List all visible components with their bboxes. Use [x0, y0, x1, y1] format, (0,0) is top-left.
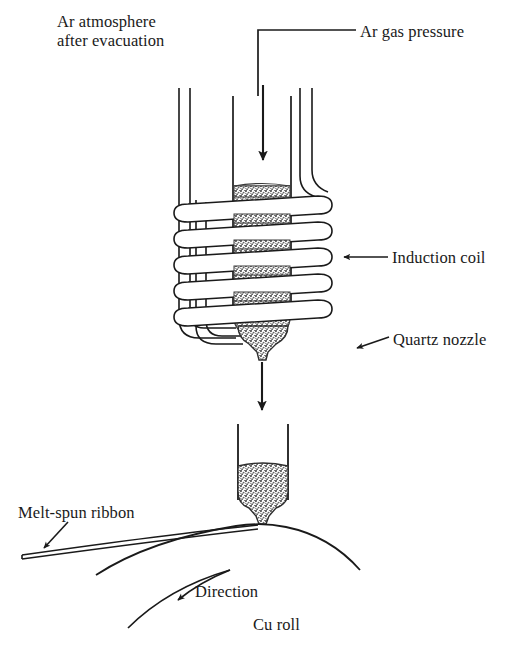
melt-spinning-diagram	[0, 0, 518, 651]
label-melt-spun-ribbon: Melt-spun ribbon	[18, 503, 135, 522]
label-quartz-nozzle: Quartz nozzle	[393, 330, 486, 349]
label-induction-coil: Induction coil	[392, 248, 486, 267]
melt-spun-ribbon-pointer	[44, 522, 68, 548]
quartz-nozzle-pointer	[357, 337, 389, 348]
label-ar-gas-pressure: Ar gas pressure	[360, 22, 464, 41]
induction-coil-lead-right	[300, 88, 328, 197]
nozzle-detail-view	[238, 424, 288, 524]
ar-gas-leader	[258, 30, 356, 96]
label-ar-atmosphere: Ar atmosphere after evacuation	[57, 12, 164, 51]
label-cu-roll: Cu roll	[253, 615, 300, 634]
quartz-nozzle-tip	[238, 326, 288, 360]
melt-spun-ribbon	[22, 525, 258, 559]
label-direction: Direction	[195, 582, 258, 601]
